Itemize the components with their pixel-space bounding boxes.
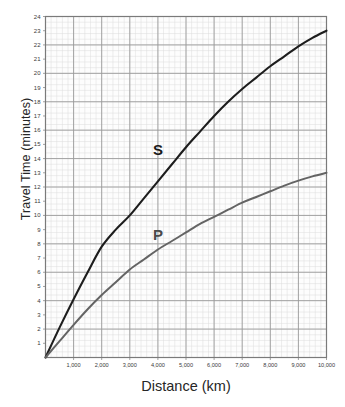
y-tick-label: 19 [15, 85, 41, 91]
y-tick-label: 17 [15, 113, 41, 119]
y-tick-label: 9 [15, 227, 41, 233]
y-tick-label: 11 [15, 198, 41, 204]
x-tick-label: 10,000 [307, 362, 345, 368]
y-tick-label: 2 [15, 326, 41, 332]
y-tick-label: 21 [15, 56, 41, 62]
y-tick-label: 16 [15, 127, 41, 133]
y-tick-label: 15 [15, 141, 41, 147]
y-tick-label: 22 [15, 42, 41, 48]
y-tick-label: 12 [15, 184, 41, 190]
y-tick-label: 23 [15, 28, 41, 34]
curve-label-s: S [153, 142, 163, 157]
y-tick-label: 8 [15, 241, 41, 247]
y-tick-label: 7 [15, 255, 41, 261]
y-tick-label: 1 [15, 340, 41, 346]
y-tick-label: 14 [15, 156, 41, 162]
y-tick-label: 20 [15, 70, 41, 76]
y-tick-label: 4 [15, 298, 41, 304]
x-axis-title: Distance (km) [45, 378, 327, 394]
travel-time-chart: Travel Time (minutes) Distance (km) 1234… [0, 0, 345, 407]
y-tick-label: 18 [15, 99, 41, 105]
y-tick-label: 24 [15, 14, 41, 20]
curve-label-p: P [153, 227, 163, 242]
y-tick-label: 6 [15, 269, 41, 275]
y-tick-label: 10 [15, 212, 41, 218]
y-tick-label: 13 [15, 170, 41, 176]
y-tick-label: 3 [15, 312, 41, 318]
y-tick-label: 5 [15, 283, 41, 289]
chart-plot-area [0, 0, 345, 407]
